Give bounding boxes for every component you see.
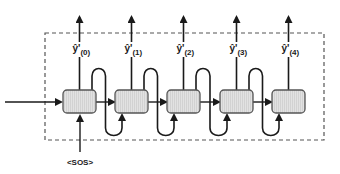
decoder-cell <box>115 90 148 113</box>
decoder-cell <box>220 90 253 113</box>
decoder-cell <box>63 90 96 113</box>
decoder-cell <box>167 90 200 113</box>
decoder-cell <box>272 90 305 113</box>
decoder-diagram: <SOS> ŷ'(0)ŷ'(1)ŷ'(2)ŷ'(3)ŷ'(4) <box>0 0 340 174</box>
sos-label: <SOS> <box>67 158 94 167</box>
